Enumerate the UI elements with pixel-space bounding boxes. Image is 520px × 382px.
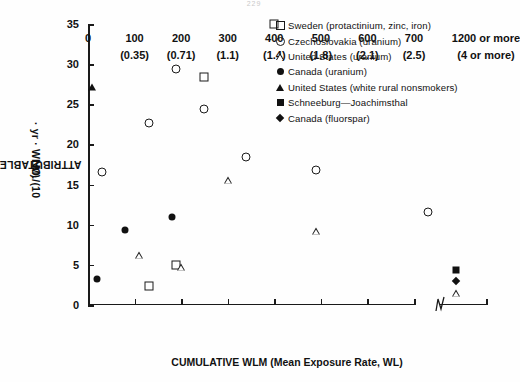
data-point [312,228,320,235]
x-tick-label: 300 [219,32,237,44]
data-point [88,84,96,91]
y-tick-label: 30 [67,58,79,70]
y-tick [88,185,94,187]
x-tick [181,299,183,305]
x-axis-title: CUMULATIVE WLM (Mean Exposure Rate, WL) [88,356,486,368]
legend-item: Canada (uranium) [272,64,504,79]
data-point [224,177,232,184]
legend-item-label: Schneeburg—Joachimsthal [288,97,408,108]
x-tick [367,299,369,305]
x-tick-label-secondary: (1.1) [216,49,239,61]
data-point [122,226,129,233]
data-point [135,252,143,259]
y-tick-label: 10 [67,219,79,231]
data-point [200,105,209,114]
legend-item: Canada (fluorspar) [272,110,504,125]
data-point [144,118,153,127]
data-point [177,264,185,271]
legend-item-label: Canada (uranium) [288,66,367,77]
legend-item: Sweden (protactinium, zinc, iron) [272,18,504,33]
data-point [97,167,106,176]
data-point [453,266,460,273]
filled-triangle-icon [272,84,288,91]
data-point [452,289,460,296]
y-tick [88,144,94,146]
x-tick-label: 0 [85,32,91,44]
open-square-icon [272,21,288,30]
y-tick-label: 0 [73,299,79,311]
legend-item: Schneeburg—Joachimsthal [272,95,504,110]
x-tick [414,299,416,305]
y-axis-line [88,24,90,305]
data-point [312,166,321,175]
x-tick-label: 200 [172,32,190,44]
x-axis-line-left [88,304,414,306]
data-point [168,213,175,220]
data-point [172,64,181,73]
x-tick [321,299,323,305]
x-axis-line-right [440,304,486,306]
data-point [242,153,251,162]
x-tick [228,299,230,305]
x-tick-label: 100 [125,32,143,44]
legend-item-label: United States (white rural nonsmokers) [288,82,458,93]
data-point [94,275,101,282]
x-tick [274,299,276,305]
legend-item-label: Sweden (protactinium, zinc, iron) [288,20,431,31]
data-point [200,72,209,81]
data-point [423,207,432,216]
y-tick-label: 15 [67,179,79,191]
open-triangle-icon [272,53,288,60]
legend-item: United States (uranium) [272,49,504,64]
page-number: 229 [0,0,508,10]
open-circle-icon [272,37,288,46]
y-tick-label: 5 [73,259,79,271]
data-point [144,281,153,290]
legend-item: United States (white rural nonsmokers) [272,80,504,95]
y-axis-title: ATTRIBUTABLE LUNG CANCERS, NO./(106 · yr… [6,24,40,305]
filled-circle-icon [272,68,288,75]
y-tick-label: 25 [67,98,79,110]
y-tick [88,225,94,227]
data-point [453,278,459,284]
legend-item-label: Canada (fluorspar) [288,113,370,124]
filled-square-icon [272,99,288,106]
y-tick [88,265,94,267]
y-tick [88,305,94,307]
y-tick [88,104,94,106]
y-tick [88,64,94,66]
y-tick [88,24,94,26]
legend-item-label: Czechoslovakia (uranium) [288,36,401,47]
x-tick-label-secondary: (0.71) [167,49,196,61]
filled-diamond-icon [272,115,288,121]
legend-item: Czechoslovakia (uranium) [272,33,504,48]
x-tick-label-secondary: (0.35) [120,49,149,61]
y-tick-label: 35 [67,18,79,30]
x-tick-break [486,299,488,305]
axis-break-icon [406,296,446,312]
legend: Sweden (protactinium, zinc, iron)Czechos… [272,18,504,126]
y-tick-label: 20 [67,138,79,150]
x-tick [135,299,137,305]
legend-item-label: United States (uranium) [288,51,392,62]
